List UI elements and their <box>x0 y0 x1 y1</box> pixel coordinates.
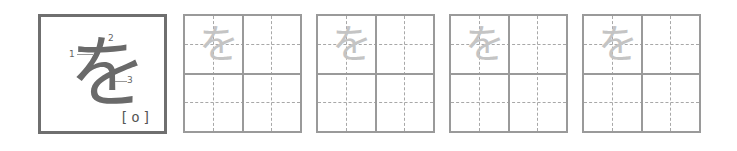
grid-line <box>584 73 699 75</box>
stroke-arrow-1 <box>77 54 93 55</box>
practice-box-2[interactable]: を <box>316 14 435 133</box>
romaji-label: [o] <box>120 109 154 125</box>
trace-character: を <box>465 16 505 72</box>
trace-character: を <box>598 16 638 72</box>
trace-character: を <box>332 16 372 72</box>
trace-character: を <box>199 16 239 72</box>
practice-box-1[interactable]: を <box>183 14 302 133</box>
grid-line <box>318 73 433 75</box>
stroke-number-3: 3 <box>127 75 133 85</box>
practice-box-4[interactable]: を <box>582 14 701 133</box>
grid-line <box>451 73 566 75</box>
stroke-number-1: 1 <box>69 49 75 59</box>
stroke-arrow-3 <box>115 81 127 82</box>
stroke-number-2: 2 <box>108 33 114 43</box>
practice-box-3[interactable]: を <box>449 14 568 133</box>
grid-line <box>185 73 300 75</box>
model-character-box: を 1 2 3 [o] <box>38 14 167 134</box>
